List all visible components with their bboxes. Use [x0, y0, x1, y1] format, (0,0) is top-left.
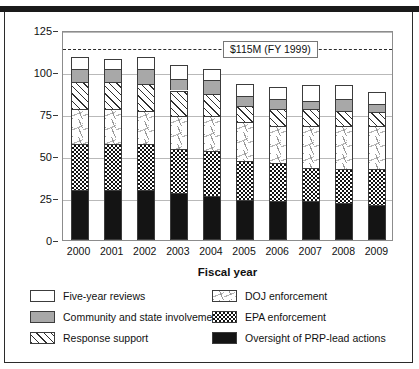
- bar-segment: [71, 82, 89, 109]
- legend-swatch: [212, 311, 237, 323]
- x-axis-tick-label: 2006: [265, 245, 288, 257]
- bar-segment: [269, 99, 287, 109]
- y-axis-tick-mark: [53, 157, 58, 158]
- bar-segment: [71, 57, 89, 69]
- bar-segment: [203, 94, 221, 116]
- bar-segment: [104, 82, 122, 109]
- bar-segment: [170, 193, 188, 240]
- y-axis-tick-mark: [53, 31, 58, 32]
- bar-segment: [170, 149, 188, 193]
- bar-segment: [170, 79, 188, 91]
- bar-segment: [137, 144, 155, 189]
- y-axis-tick-mark: [53, 199, 58, 200]
- bar-segment: [368, 92, 386, 104]
- x-axis-tick-label: 2004: [199, 245, 222, 257]
- bar-segment: [269, 87, 287, 99]
- legend-item: EPA enforcement: [212, 309, 402, 327]
- bar-segment: [302, 101, 320, 109]
- bar-segment: [368, 126, 386, 170]
- x-axis-tick-label: 2003: [166, 245, 189, 257]
- x-axis-tick-label: 2001: [100, 245, 123, 257]
- figure-container: Millions of dollars 0255075100125 $115M …: [0, 0, 419, 369]
- bar-segment: [203, 69, 221, 81]
- bar-segment: [104, 144, 122, 189]
- stacked-bar: [368, 92, 386, 240]
- legend-swatch: [30, 332, 55, 344]
- bar-segment: [236, 96, 254, 106]
- x-axis-tick-label: 2009: [365, 245, 388, 257]
- y-axis-tick-mark: [53, 241, 58, 242]
- bar-segment: [203, 80, 221, 93]
- x-axis-tick-label: 2008: [332, 245, 355, 257]
- bar-segment: [137, 57, 155, 69]
- legend-column-left: Five-year reviewsCommunity and state inv…: [30, 288, 210, 351]
- bar-segment: [104, 59, 122, 69]
- stacked-bar: [269, 87, 287, 240]
- bar-segment: [335, 111, 353, 126]
- plot-frame: $115M (FY 1999): [62, 31, 393, 241]
- stacked-bar: [203, 69, 221, 240]
- y-axis-tick-label: 25: [40, 193, 52, 205]
- legend-label: Oversight of PRP-lead actions: [245, 331, 386, 345]
- x-axis-title: Fiscal year: [62, 266, 393, 278]
- stacked-bar: [170, 65, 188, 240]
- stacked-bar: [104, 59, 122, 240]
- reference-line-label: $115M (FY 1999): [223, 41, 318, 58]
- bar-segment: [137, 190, 155, 240]
- bar-segment: [302, 109, 320, 126]
- bar-segment: [269, 109, 287, 126]
- legend-swatch: [212, 332, 237, 344]
- bar-segment: [368, 169, 386, 204]
- y-axis-tick-label: 0: [46, 235, 52, 247]
- bar-segment: [335, 126, 353, 170]
- bar-segment: [137, 111, 155, 145]
- legend-label: DOJ enforcement: [245, 289, 327, 303]
- legend-swatch: [30, 290, 55, 302]
- y-axis: 0255075100125: [0, 31, 58, 242]
- bar-segment: [71, 190, 89, 240]
- bar-segment: [104, 109, 122, 144]
- x-axis: 2000200120022003200420052006200720082009: [62, 243, 393, 261]
- legend-label: EPA enforcement: [245, 310, 326, 324]
- bar-segment: [368, 205, 386, 240]
- legend-item: Oversight of PRP-lead actions: [212, 330, 402, 348]
- bar-segment: [137, 84, 155, 111]
- bar-segment: [335, 99, 353, 111]
- stacked-bar: [302, 85, 320, 240]
- bar-segment: [236, 161, 254, 200]
- bar-segment: [269, 163, 287, 202]
- legend-swatch: [212, 290, 237, 302]
- x-axis-tick-label: 2002: [133, 245, 156, 257]
- bar-segment: [104, 190, 122, 240]
- y-axis-tick-mark: [53, 115, 58, 116]
- bar-segment: [302, 126, 320, 168]
- bar-segment: [269, 126, 287, 163]
- bar-segment: [236, 84, 254, 96]
- x-axis-tick-label: 2005: [232, 245, 255, 257]
- legend-item: Response support: [30, 330, 210, 348]
- bar-segment: [236, 122, 254, 161]
- legend-label: Response support: [63, 331, 148, 345]
- legend-item: Five-year reviews: [30, 288, 210, 306]
- bar-segment: [302, 201, 320, 240]
- legend-label: Five-year reviews: [63, 289, 145, 303]
- bar-segment: [335, 169, 353, 203]
- stacked-bar: [71, 57, 89, 240]
- bar-segment: [368, 112, 386, 125]
- bar-segment: [302, 85, 320, 100]
- bar-segment: [335, 203, 353, 240]
- bar-segment: [335, 85, 353, 98]
- bar-segment: [236, 106, 254, 123]
- bar-segment: [236, 200, 254, 240]
- x-axis-tick-label: 2000: [67, 245, 90, 257]
- legend-item: DOJ enforcement: [212, 288, 402, 306]
- bar-segment: [137, 69, 155, 84]
- bar-segment: [203, 116, 221, 151]
- y-axis-tick-label: 125: [34, 25, 52, 37]
- y-axis-tick-label: 75: [40, 109, 52, 121]
- stacked-bar: [236, 84, 254, 240]
- bar-segment: [170, 116, 188, 150]
- bar-segment: [104, 69, 122, 82]
- stacked-bar: [137, 57, 155, 240]
- bar-segment: [269, 201, 287, 240]
